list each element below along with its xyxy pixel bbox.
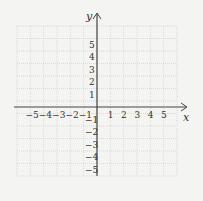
x-tick-label: −4 <box>39 110 53 120</box>
y-axis-label: y <box>85 10 93 23</box>
x-tick-label: −3 <box>52 110 66 120</box>
x-tick-label: −5 <box>26 110 40 120</box>
y-tick-label: −2 <box>85 127 98 137</box>
x-tick-label: 5 <box>161 110 167 120</box>
coordinate-plane: x y −5−4−3−2−112345 54321−1−2−3−4−5 <box>0 0 203 201</box>
x-tick-label: −2 <box>65 110 78 120</box>
x-tick-label: 2 <box>121 110 127 120</box>
y-tick-label: −1 <box>85 115 98 125</box>
y-tick-label: 4 <box>89 52 95 62</box>
y-tick-label: 3 <box>89 65 95 75</box>
y-tick-label: −5 <box>85 165 99 175</box>
x-axis-label: x <box>183 111 190 124</box>
y-tick-label: 5 <box>89 40 95 50</box>
y-tick-label: 2 <box>89 77 95 87</box>
x-tick-label: 1 <box>108 110 114 120</box>
y-tick-label: −3 <box>85 140 99 150</box>
y-tick-label: 1 <box>89 90 95 100</box>
y-tick-label: −4 <box>85 152 99 162</box>
x-tick-label: 4 <box>148 110 154 120</box>
x-tick-label: 3 <box>134 110 140 120</box>
